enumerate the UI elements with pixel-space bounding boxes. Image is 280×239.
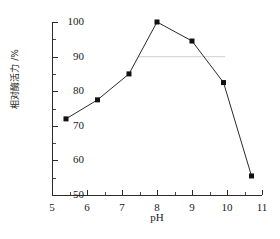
data-point-marker — [249, 173, 254, 178]
data-series — [52, 22, 262, 196]
plot-area: 5060708090100 567891011 — [52, 22, 262, 196]
x-axis-title: pH — [52, 211, 262, 223]
data-point-marker — [190, 39, 195, 44]
data-point-marker — [95, 97, 100, 102]
y-axis-title: 相对酶活力 /% — [10, 24, 20, 134]
data-point-marker — [64, 116, 69, 121]
series-line — [66, 22, 252, 176]
data-point-marker — [127, 71, 132, 76]
data-point-marker — [221, 80, 226, 85]
series-markers — [64, 20, 255, 179]
x-tick — [262, 190, 263, 195]
chart-figure: 5060708090100 567891011 pH 相对酶活力 /% — [0, 0, 280, 239]
data-point-marker — [155, 20, 160, 25]
